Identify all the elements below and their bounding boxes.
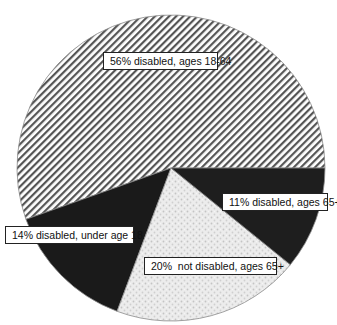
slice-label-56: 56% disabled, ages 18-64 xyxy=(103,52,218,70)
slice-label-20: 20% not disabled, ages 65+ xyxy=(144,257,277,275)
pie-chart xyxy=(0,0,337,325)
slice-label-11: 11% disabled, ages 65+ xyxy=(222,193,328,211)
slice-label-14: 14% disabled, under age 18 xyxy=(5,226,134,244)
